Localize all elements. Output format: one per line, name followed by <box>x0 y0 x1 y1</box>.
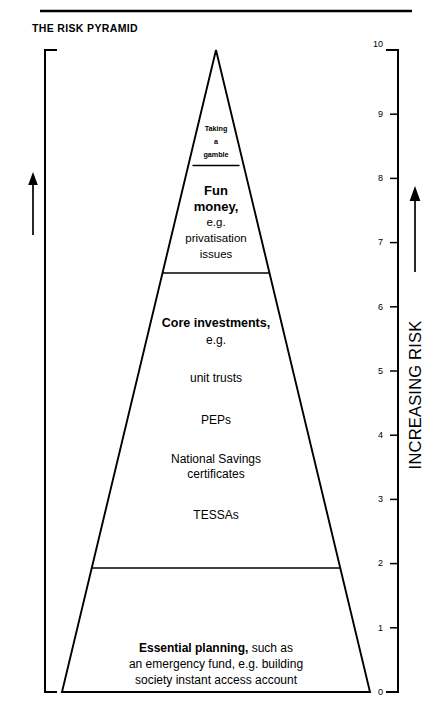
tick-label-4: 4 <box>378 430 383 440</box>
up-arrow-icon-right <box>410 186 421 201</box>
core-item-tessas: TESSAs <box>193 508 238 522</box>
essential-line-3: society instant access account <box>135 673 298 687</box>
tick-label-0: 0 <box>378 687 383 697</box>
tick-label-10: 10 <box>373 39 383 49</box>
gamble-line-3: gamble <box>203 150 228 159</box>
essential-bold: Essential planning, <box>139 641 248 655</box>
tick-label-3: 3 <box>378 494 383 504</box>
core-item-national-savings: National Savings <box>171 452 261 466</box>
tick-label-1: 1 <box>378 623 383 633</box>
left-bracket <box>45 50 57 692</box>
fun-line-2: money, <box>194 199 239 214</box>
essential-rest: such as <box>248 641 293 655</box>
gamble-line-1: Taking <box>205 124 228 133</box>
tier-essential-planning: Essential planning, such as an emergency… <box>129 641 303 687</box>
fun-line-5: issues <box>200 248 233 260</box>
risk-scale-ticks <box>390 114 398 628</box>
right-axis-label: INCREASING RISK <box>406 321 424 470</box>
tick-label-2: 2 <box>378 558 383 568</box>
core-item-unit-trusts: unit trusts <box>190 371 242 385</box>
tick-label-8: 8 <box>378 173 383 183</box>
core-item-certificates: certificates <box>187 467 244 481</box>
tick-label-6: 6 <box>378 302 383 312</box>
core-eg: e.g. <box>206 333 226 347</box>
up-arrow-icon <box>28 172 38 185</box>
risk-pyramid-figure: THE RISK PYRAMID DECREASING PRIORITY 10 … <box>0 0 434 717</box>
essential-line-1: Essential planning, such as <box>139 641 293 655</box>
page-title: THE RISK PYRAMID <box>32 22 138 34</box>
core-item-peps: PEPs <box>201 413 231 427</box>
tick-label-5: 5 <box>378 366 383 376</box>
essential-line-2: an emergency fund, e.g. building <box>129 657 303 671</box>
fun-line-1: Fun <box>204 183 228 198</box>
risk-scale-labels: 10 9 8 7 6 5 4 3 2 1 0 <box>373 39 383 697</box>
fun-line-4: privatisation <box>185 232 246 244</box>
tick-label-9: 9 <box>378 109 383 119</box>
fun-line-3: e.g. <box>206 216 225 228</box>
core-heading: Core investments, <box>162 316 270 330</box>
tick-label-7: 7 <box>378 237 383 247</box>
